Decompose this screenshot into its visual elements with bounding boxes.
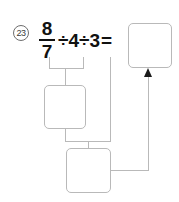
connector-line-step1-down (65, 128, 66, 141)
connector-line-divisor2-down (110, 57, 111, 141)
answer-box-result[interactable] (128, 23, 172, 68)
equals-sign-icon: = (101, 31, 112, 50)
answer-box-step1[interactable] (44, 85, 86, 129)
connector-line-step2-right (111, 170, 149, 171)
division-sign-1-icon: ÷ (58, 31, 68, 50)
connector-line-to-step1-box (65, 68, 66, 86)
equation-expression: 8 7 ÷ 4 ÷ 3 = (39, 19, 112, 61)
arrow-up-icon (144, 68, 152, 77)
fraction-eight-sevenths: 8 7 (39, 19, 55, 61)
divisor-1: 4 (68, 31, 79, 50)
problem-number-badge: 23 (13, 25, 29, 41)
worksheet-problem-canvas: 23 8 7 ÷ 4 ÷ 3 = (0, 0, 179, 202)
divisor-2: 3 (89, 31, 100, 50)
answer-box-step2[interactable] (66, 148, 111, 193)
connector-bracket-top (49, 68, 84, 69)
connector-line-to-result-box (148, 76, 149, 171)
fraction-denominator: 7 (41, 42, 54, 61)
fraction-numerator: 8 (41, 19, 54, 38)
division-sign-2-icon: ÷ (79, 31, 89, 50)
